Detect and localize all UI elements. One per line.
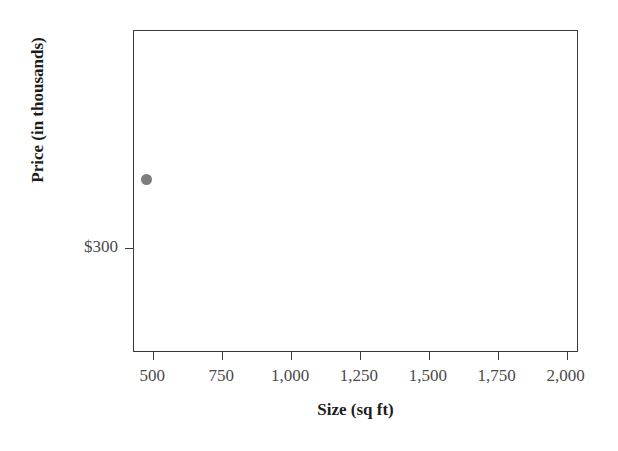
x-axis-tick-label: 1,750 <box>478 366 516 386</box>
x-axis-tick-label: 1,250 <box>340 366 378 386</box>
y-axis-tick-labels: $300$350$400$450$500$550$600$650 <box>0 30 118 352</box>
x-axis-tick-label: 1,000 <box>271 366 309 386</box>
y-axis-tick <box>125 248 134 249</box>
x-axis-tick <box>153 351 154 360</box>
scatter-plot-figure: Price (in thousands) $300$350$400$450$50… <box>0 0 618 451</box>
x-axis-tick-label: 2,000 <box>546 366 584 386</box>
plot-area <box>134 31 577 351</box>
x-axis-tick <box>360 351 361 360</box>
x-axis-tick-label: 500 <box>140 366 166 386</box>
x-axis-tick-label: 750 <box>208 366 234 386</box>
x-axis-tick-label: 1,500 <box>409 366 447 386</box>
plot-frame <box>133 30 578 352</box>
x-axis-tick <box>429 351 430 360</box>
x-axis-title: Size (sq ft) <box>133 400 578 420</box>
x-axis-tick-labels: 5007501,0001,2501,5001,7502,000 <box>133 366 578 390</box>
data-point <box>141 174 152 185</box>
x-axis-tick <box>291 351 292 360</box>
y-axis-tick-label: $300 <box>84 237 118 257</box>
x-axis-tick <box>567 351 568 360</box>
x-axis-tick <box>498 351 499 360</box>
x-axis-tick <box>222 351 223 360</box>
